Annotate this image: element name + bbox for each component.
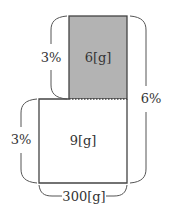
mixing-diagram: 6[g] 9[g] 3% 3% 6% 300[g] (0, 0, 170, 222)
width-label: 300[g] (62, 189, 105, 204)
lower-percent-label: 3% (11, 132, 32, 147)
total-percent-label: 6% (141, 91, 162, 106)
upper-percent-label: 3% (41, 50, 62, 65)
upper-box-label: 6[g] (85, 50, 112, 65)
lower-box-label: 9[g] (70, 133, 97, 148)
